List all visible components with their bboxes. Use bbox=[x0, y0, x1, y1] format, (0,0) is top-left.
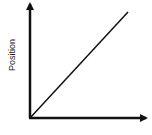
data-line bbox=[30, 12, 128, 118]
y-axis-label: Position bbox=[7, 35, 17, 75]
chart-canvas bbox=[0, 0, 152, 135]
